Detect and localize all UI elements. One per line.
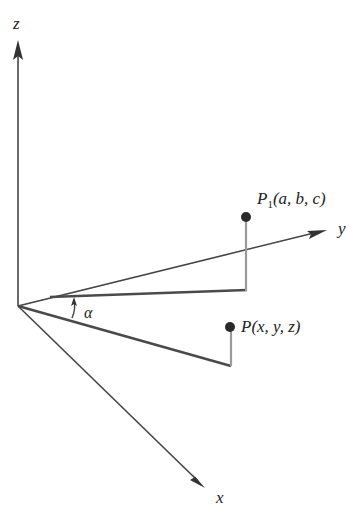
z-axis-label: z (12, 14, 20, 33)
alpha-label: α (84, 304, 93, 321)
point-p1-dot (241, 212, 251, 222)
alpha-angle-arrow: α (71, 297, 93, 321)
point-p-dot (225, 322, 235, 332)
y-axis-label: y (336, 219, 346, 238)
x-axis-label: x (215, 488, 224, 507)
point-p: P(x, y, z) (225, 317, 301, 336)
point-p1-label-main: P (256, 189, 267, 208)
coordinate-diagram: z y x α P1(a, b, c) P(x, y, z) (0, 0, 358, 516)
point-p1-label-coords: (a, b, c) (273, 189, 326, 208)
point-p1: P1(a, b, c) (241, 189, 326, 222)
point-p-label: P(x, y, z) (240, 317, 301, 336)
point-p1-label: P1(a, b, c) (256, 189, 326, 210)
z-axis: z (12, 14, 23, 306)
